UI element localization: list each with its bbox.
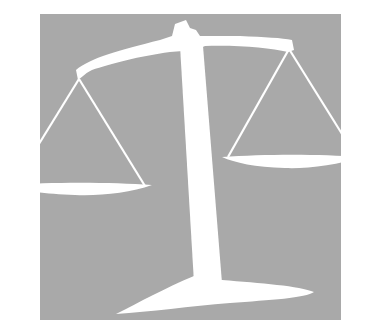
scales-of-justice-icon bbox=[0, 0, 370, 331]
scales-illustration: Scales of justice clip art bbox=[0, 0, 370, 331]
